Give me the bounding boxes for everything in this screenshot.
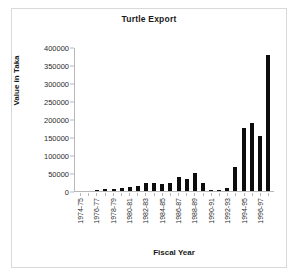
bar-slot [93, 48, 101, 191]
x-tick-label: 1978-79 [109, 198, 116, 224]
x-tick-label: 1996-97 [256, 198, 263, 224]
x-tick-slot [101, 193, 109, 245]
y-tick-label: 300000 [44, 80, 69, 89]
chart-figure: Turtle Export Value in Taka 400000350000… [0, 0, 298, 278]
x-tick-mark [252, 193, 253, 196]
bar-slot [101, 48, 109, 191]
bar [95, 190, 99, 191]
x-tick-label: 1992-93 [224, 198, 231, 224]
bar-slot [207, 48, 215, 191]
bar [177, 177, 181, 191]
bar-slot [191, 48, 199, 191]
x-tick-label: 1974-75 [77, 198, 84, 224]
x-axis-ticks: 1974-751976-771978-791980-811982-831984-… [74, 193, 274, 245]
x-tick-slot: 1974-75 [76, 193, 84, 245]
x-tick-slot: 1990-91 [207, 193, 215, 245]
bar [168, 183, 172, 191]
bar [103, 189, 107, 191]
bar [209, 190, 213, 191]
x-tick-mark [203, 193, 204, 196]
x-tick-mark [219, 193, 220, 196]
x-tick-slot: 1992-93 [223, 193, 231, 245]
y-tick-label: 250000 [44, 98, 69, 107]
bar [225, 188, 229, 191]
bar-slot [215, 48, 223, 191]
x-tick-slot: 1982-83 [141, 193, 149, 245]
bar-slot [134, 48, 142, 191]
bar-slot [256, 48, 264, 191]
x-tick-label: 1994-95 [240, 198, 247, 224]
bar-slot [240, 48, 248, 191]
bar [160, 184, 164, 191]
x-tick-label: 1980-81 [126, 198, 133, 224]
bar [128, 187, 132, 191]
bar-slot [126, 48, 134, 191]
x-tick-mark [137, 193, 138, 196]
x-tick-mark [113, 193, 114, 196]
bar [152, 183, 156, 191]
x-tick-mark [129, 193, 130, 196]
x-tick-slot: 1994-95 [239, 193, 247, 245]
x-tick-mark [194, 193, 195, 196]
bar-slot [110, 48, 118, 191]
bar-slot [223, 48, 231, 191]
x-tick-label: 1986-87 [175, 198, 182, 224]
x-tick-mark [154, 193, 155, 196]
x-tick-slot [117, 193, 125, 245]
x-tick-slot [231, 193, 239, 245]
bar [136, 186, 140, 191]
x-tick-mark [162, 193, 163, 196]
bar-series [75, 48, 274, 191]
x-tick-slot [215, 193, 223, 245]
x-tick-label: 1976-77 [93, 198, 100, 224]
x-tick-label: 1988-89 [191, 198, 198, 224]
x-tick-mark [145, 193, 146, 196]
x-tick-mark [170, 193, 171, 196]
bar [266, 55, 270, 191]
x-tick-slot [248, 193, 256, 245]
x-tick-label: 1990-91 [207, 198, 214, 224]
x-tick-slot: 1978-79 [109, 193, 117, 245]
x-tick-mark [186, 193, 187, 196]
y-tick-label: 100000 [44, 152, 69, 161]
x-tick-mark [211, 193, 212, 196]
bar-slot [199, 48, 207, 191]
bar [144, 183, 148, 191]
y-tick-label: 350000 [44, 62, 69, 71]
x-tick-slot [199, 193, 207, 245]
x-tick-mark [260, 193, 261, 196]
plot-area [74, 48, 274, 192]
x-tick-slot: 1986-87 [174, 193, 182, 245]
x-tick-mark [80, 193, 81, 196]
bar [242, 128, 246, 191]
x-tick-mark [227, 193, 228, 196]
y-tick-label: 150000 [44, 134, 69, 143]
bar-slot [118, 48, 126, 191]
bar [233, 167, 237, 191]
x-tick-label: 1984-85 [158, 198, 165, 224]
bar [185, 179, 189, 191]
x-axis-title: Fiscal Year [74, 248, 274, 257]
y-tick-label: 200000 [44, 116, 69, 125]
y-axis-ticks: 4000003500003000002500002000001500001000… [0, 48, 74, 192]
bar-slot [264, 48, 272, 191]
bar [112, 189, 116, 191]
x-tick-slot [264, 193, 272, 245]
bar [217, 190, 221, 191]
bar-slot [166, 48, 174, 191]
y-tick-label: 400000 [44, 44, 69, 53]
x-tick-slot [150, 193, 158, 245]
bar-slot [150, 48, 158, 191]
x-tick-slot: 1980-81 [125, 193, 133, 245]
x-tick-slot [182, 193, 190, 245]
x-tick-slot [133, 193, 141, 245]
x-tick-mark [244, 193, 245, 196]
bar [201, 183, 205, 191]
x-tick-slot: 1976-77 [92, 193, 100, 245]
x-tick-mark [105, 193, 106, 196]
bar-slot [77, 48, 85, 191]
x-tick-slot: 1988-89 [190, 193, 198, 245]
bar [250, 123, 254, 191]
bar [120, 188, 124, 191]
x-tick-mark [88, 193, 89, 196]
